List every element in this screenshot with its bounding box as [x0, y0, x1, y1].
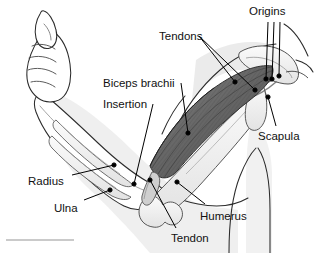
label-origins: Origins — [249, 6, 285, 18]
leader-dot-tendons-1 — [233, 80, 237, 84]
label-radius: Radius — [28, 176, 64, 188]
label-tendon: Tendon — [171, 233, 209, 245]
label-tendons: Tendons — [159, 31, 202, 43]
label-insertion: Insertion — [103, 99, 147, 111]
leader-dot-radius-1 — [112, 163, 116, 167]
label-biceps-brachii: Biceps brachii — [103, 78, 175, 90]
label-scapula: Scapula — [258, 131, 300, 143]
leader-dot-insertion-1 — [132, 182, 136, 186]
leader-dot-ulna-1 — [108, 188, 112, 192]
leader-dot-tendon-1 — [148, 178, 152, 182]
leader-dot-biceps-1 — [186, 131, 190, 135]
leader-dot-scapula-1 — [266, 95, 270, 99]
anatomy-illustration — [0, 0, 314, 253]
leader-dot-origins-3 — [277, 74, 281, 78]
label-ulna: Ulna — [54, 203, 78, 215]
leader-dot-origins-2 — [270, 77, 274, 81]
label-humerus: Humerus — [200, 211, 247, 223]
leader-dot-tendons-2 — [253, 88, 257, 92]
leader-dot-origins-1 — [264, 77, 268, 81]
leader-dot-humerus-1 — [175, 180, 179, 184]
anatomy-figure: Origins Tendons Biceps brachii Insertion… — [0, 0, 314, 253]
